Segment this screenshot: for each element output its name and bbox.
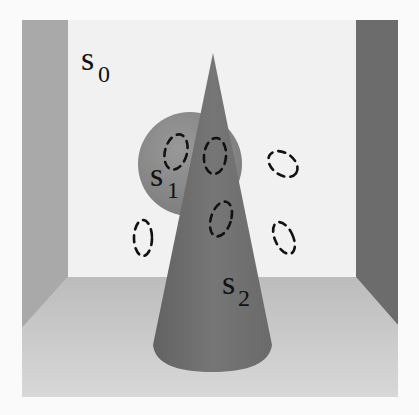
label-s2-sub: 2 bbox=[238, 285, 250, 311]
scene-diagram: s 0 s 1 s 2 bbox=[0, 0, 419, 415]
label-s1-sub: 1 bbox=[167, 177, 179, 203]
label-s1-base: s bbox=[150, 156, 163, 193]
right-wall bbox=[356, 20, 398, 325]
label-s0-sub: 0 bbox=[98, 61, 110, 87]
label-s0-base: s bbox=[81, 40, 94, 77]
label-s2-base: s bbox=[222, 264, 235, 301]
left-wall bbox=[22, 20, 68, 328]
